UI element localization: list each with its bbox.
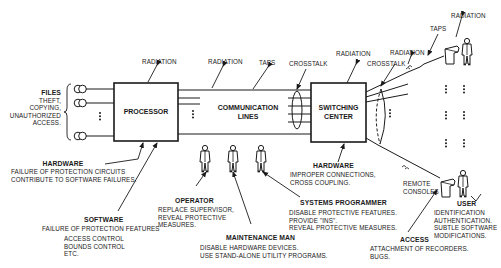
software-title-text: SOFTWARE [84, 216, 123, 224]
hardware-switch-lines: IMPROPER CONNECTIONS, CROSS COUPLING. [290, 171, 376, 186]
communication-lines-label-2: LINES [205, 112, 291, 121]
access-line: ATTACHMENT OF RECORDERS. [370, 245, 469, 253]
user-line: IDENTIFICATION [434, 209, 497, 217]
software-sub-line: ACCESS CONTROL [64, 235, 125, 243]
switch-crosstalk-label: CROSSTALK [367, 60, 406, 68]
operator-line: MEASURES. [158, 221, 234, 229]
access-line: BUGS. [370, 253, 469, 261]
fanout-dots [389, 109, 391, 117]
user-title: USER [457, 200, 476, 208]
remote-console-icon-bottom [441, 179, 455, 197]
switching-center-label-1: SWITCHING [311, 103, 366, 112]
software-line: FAILURE OF PROTECTION FEATURES [42, 225, 160, 233]
file-tape-icon [74, 85, 86, 140]
switching-center-label-2: CENTER [311, 112, 366, 121]
hardware-switch-title: HARDWARE [313, 162, 354, 170]
remote-terminals-dots [445, 85, 465, 147]
software-sub-lines: ACCESS CONTROL BOUNDS CONTROL ETC. [64, 235, 125, 258]
remote-taps-label: TAPS [430, 25, 446, 33]
tap-break-bottom [402, 166, 409, 170]
access-title-text: ACCESS [400, 236, 429, 244]
hardware-processor-line: FAILURE OF PROTECTION CIRCUITS [11, 168, 137, 176]
hardware-switch-title-text: HARDWARE [313, 162, 354, 170]
software-sub-line: ETC. [64, 250, 125, 258]
tap-break-top [406, 66, 412, 70]
maintenance-man-line: DISABLE HARDWARE DEVICES. [200, 244, 328, 252]
files-line: THEFT, [8, 97, 61, 105]
hardware-switch-line: IMPROPER CONNECTIONS, [290, 171, 376, 179]
software-title: SOFTWARE [84, 216, 123, 224]
line-taps-label: TAPS [259, 59, 275, 67]
files-line: UNAUTHORIZED [8, 112, 61, 120]
hardware-processor-line: CONTRIBUTE TO SOFTWARE FAILURES. [11, 176, 137, 184]
maintenance-man-title: MAINTENANCE MAN [226, 234, 295, 242]
files-title: FILES [8, 89, 61, 97]
remote-lines [366, 64, 440, 178]
line-crosstalk-label: CROSSTALK [289, 60, 328, 68]
files-line: ACCESS. [8, 119, 61, 127]
access-lines: ATTACHMENT OF RECORDERS. BUGS. [370, 245, 469, 260]
systems-programmer-icon [256, 145, 266, 172]
maintenance-man-icon [228, 145, 238, 172]
software-sub-line: BOUNDS CONTROL [64, 243, 125, 251]
files-annotation: FILES THEFT, COPYING, UNAUTHORIZED ACCES… [8, 89, 61, 127]
remote-person-icon-top [462, 38, 472, 65]
systems-programmer-title: SYSTEMS PROGRAMMER [300, 199, 387, 207]
hardware-switch-line: CROSS COUPLING. [290, 179, 376, 187]
operator-line: REPLACE SUPERVISOR, [158, 206, 234, 214]
user-lines: IDENTIFICATION AUTHENTICATION. SUBTLE SO… [434, 209, 497, 239]
systems-programmer-lines: DISABLE PROTECTIVE FEATURES. PROVIDE "IN… [289, 209, 397, 232]
user-line: SUBTLE SOFTWARE [434, 224, 497, 232]
operator-icon [200, 145, 210, 172]
more-lines-dots [192, 110, 194, 118]
processor-radiation-label: RADIATION [142, 58, 177, 66]
systems-programmer-title-text: SYSTEMS PROGRAMMER [300, 199, 387, 207]
operator-title-text: OPERATOR [175, 197, 214, 205]
maintenance-man-lines: DISABLE HARDWARE DEVICES. USE STAND-ALON… [200, 244, 328, 259]
communication-lines-label-1: COMMUNICATION [205, 103, 291, 112]
systems-programmer-line: REVEAL PROTECTIVE MEASURES. [289, 224, 397, 232]
user-title-text: USER [457, 200, 476, 208]
files-brace [64, 84, 71, 140]
hardware-processor-lines: FAILURE OF PROTECTION CIRCUITS CONTRIBUT… [11, 168, 137, 183]
remote-consoles-line: REMOTE [403, 180, 439, 188]
line-radiation-label: RADIATION [208, 58, 243, 66]
operator-title: OPERATOR [175, 197, 214, 205]
crosstalk-ring [292, 91, 302, 129]
user-line: AUTHENTICATION. [434, 217, 497, 225]
remote-console-icon-top [445, 46, 459, 64]
hardware-processor-title: HARDWARE [8, 160, 118, 168]
more-files-dots [99, 112, 101, 120]
files-line: COPYING, [8, 104, 61, 112]
remote-top-radiation-label: RADIATION [451, 12, 486, 20]
communication-lines-label: COMMUNICATION LINES [205, 103, 291, 121]
access-title: ACCESS [400, 236, 429, 244]
switching-center-label: SWITCHING CENTER [311, 103, 366, 121]
remote-consoles-line: CONSOLES [403, 188, 439, 196]
operator-lines: REPLACE SUPERVISOR, REVEAL PROTECTIVE ME… [158, 206, 234, 229]
systems-programmer-line: PROVIDE "INS". [289, 217, 397, 225]
remote-radiation-label: RADIATION [390, 49, 425, 57]
maintenance-man-title-text: MAINTENANCE MAN [226, 234, 295, 242]
operator-line: REVEAL PROTECTIVE [158, 214, 234, 222]
hardware-processor-annotation: HARDWARE [8, 160, 118, 168]
maintenance-man-line: USE STAND-ALONE UTILITY PROGRAMS. [200, 252, 328, 260]
systems-programmer-line: DISABLE PROTECTIVE FEATURES. [289, 209, 397, 217]
switch-radiation-label: RADIATION [336, 50, 371, 58]
processor-label: PROCESSOR [114, 107, 178, 116]
user-line: MODIFICATIONS. [434, 232, 497, 240]
user-icon [458, 170, 468, 197]
remote-consoles-label: REMOTE CONSOLES [403, 180, 439, 195]
